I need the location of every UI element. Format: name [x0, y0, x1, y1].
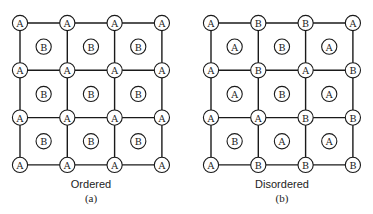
atom-label: A [110, 18, 118, 29]
atom-label: B [87, 136, 94, 147]
corner-atom-a: A [107, 157, 122, 172]
corner-atom-a: A [251, 110, 266, 125]
atom-label: B [255, 65, 262, 76]
atom-label: B [135, 136, 142, 147]
atom-label: A [325, 89, 333, 100]
atom-label: B [278, 89, 285, 100]
corner-atom-b: B [345, 157, 360, 172]
center-atom-a: A [274, 134, 289, 149]
lattice-ordered: AAAAAAAAAAAAAAAABBBBBBBBB [12, 15, 169, 172]
atom-label: B [255, 160, 262, 171]
center-atom-b: B [83, 39, 98, 54]
lattice-disordered: ABBAABABAABBABBBABAABABAA [203, 15, 360, 172]
corner-atom-b: B [298, 157, 313, 172]
atom-label: A [110, 160, 118, 171]
center-atom-b: B [36, 134, 51, 149]
atom-label: B [255, 18, 262, 29]
atom-label: A [207, 160, 215, 171]
corner-atom-a: A [107, 15, 122, 30]
corner-atom-b: B [251, 63, 266, 78]
atom-label: B [302, 160, 309, 171]
corner-atom-a: A [154, 157, 169, 172]
corner-atom-a: A [203, 15, 218, 30]
atom-label: B [231, 136, 238, 147]
center-atom-b: B [83, 134, 98, 149]
atom-label: A [207, 65, 215, 76]
center-atom-a: A [322, 86, 337, 101]
corner-atom-a: A [203, 157, 218, 172]
corner-atom-a: A [12, 63, 27, 78]
center-atom-b: B [83, 86, 98, 101]
atom-label: A [325, 42, 333, 53]
corner-atom-a: A [107, 63, 122, 78]
corner-atom-b: B [298, 110, 313, 125]
corner-atom-a: A [60, 63, 75, 78]
center-atom-b: B [131, 134, 146, 149]
atom-label: B [302, 18, 309, 29]
atom-label: A [230, 89, 238, 100]
center-atom-b: B [131, 39, 146, 54]
corner-atom-a: A [154, 63, 169, 78]
atom-label: A [230, 42, 238, 53]
center-atom-b: B [131, 86, 146, 101]
corner-atom-b: B [345, 110, 360, 125]
atom-label: A [278, 136, 286, 147]
atom-label: B [135, 42, 142, 53]
atom-label: A [207, 18, 215, 29]
corner-atom-a: A [203, 63, 218, 78]
corner-atom-a: A [12, 110, 27, 125]
atom-label: B [40, 89, 47, 100]
atom-label: A [16, 65, 24, 76]
atom-label: B [40, 42, 47, 53]
atom-label: A [63, 18, 71, 29]
center-atom-a: A [322, 134, 337, 149]
atom-label: A [63, 65, 71, 76]
atom-label: B [40, 136, 47, 147]
atom-label: A [254, 113, 262, 124]
center-atom-b: B [274, 39, 289, 54]
corner-atom-a: A [107, 110, 122, 125]
atom-label: B [349, 160, 356, 171]
atom-label: A [325, 136, 333, 147]
sublabel-b: (b) [262, 192, 302, 204]
corner-atom-a: A [345, 15, 360, 30]
atom-label: B [278, 42, 285, 53]
center-atom-a: A [227, 86, 242, 101]
caption-ordered: Ordered [31, 178, 151, 190]
atom-label: A [348, 18, 356, 29]
corner-atom-b: B [345, 63, 360, 78]
atom-label: A [157, 18, 165, 29]
atom-label: B [349, 113, 356, 124]
caption-disordered: Disordered [222, 178, 342, 190]
atom-label: A [16, 18, 24, 29]
corner-atom-a: A [60, 157, 75, 172]
atom-label: A [207, 113, 215, 124]
atom-label: A [16, 160, 24, 171]
corner-atom-a: A [298, 63, 313, 78]
atom-label: A [16, 113, 24, 124]
corner-atom-a: A [203, 110, 218, 125]
center-atom-b: B [274, 86, 289, 101]
corner-atom-b: B [298, 15, 313, 30]
center-atom-b: B [36, 86, 51, 101]
corner-atom-a: A [154, 15, 169, 30]
atom-label: B [302, 113, 309, 124]
atom-label: B [87, 89, 94, 100]
corner-atom-a: A [60, 15, 75, 30]
atom-label: A [157, 113, 165, 124]
atom-label: B [135, 89, 142, 100]
corner-atom-a: A [12, 157, 27, 172]
corner-atom-b: B [251, 157, 266, 172]
atom-label: A [110, 65, 118, 76]
atom-label: B [87, 42, 94, 53]
atom-label: A [157, 160, 165, 171]
atom-label: A [301, 65, 309, 76]
corner-atom-a: A [12, 15, 27, 30]
atom-label: A [157, 65, 165, 76]
sublabel-a: (a) [71, 192, 111, 204]
atom-label: A [63, 160, 71, 171]
atom-label: B [349, 65, 356, 76]
center-atom-a: A [227, 39, 242, 54]
center-atom-b: B [36, 39, 51, 54]
center-atom-a: A [322, 39, 337, 54]
